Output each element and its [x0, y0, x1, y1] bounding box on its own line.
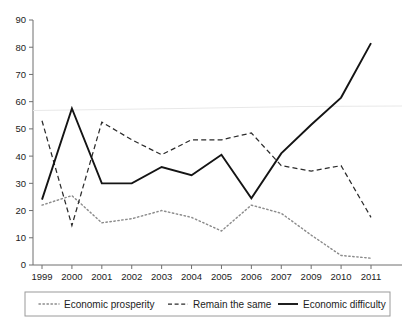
- y-axis-tick-label: 60: [15, 96, 26, 107]
- y-axis-tick-label: 30: [15, 178, 26, 189]
- x-axis-tick-label: 2003: [151, 271, 172, 282]
- scan-artifact-line: [33, 106, 402, 111]
- x-axis-tick-label: 2011: [361, 271, 381, 282]
- x-axis-tick-label: 1999: [31, 271, 52, 282]
- x-axis-tick-label: 2009: [301, 271, 322, 282]
- y-axis: 0102030405060708090: [15, 14, 33, 270]
- y-axis-tick-label: 20: [15, 205, 26, 216]
- chart-legend: Economic prosperityRemain the sameEconom…: [25, 292, 390, 316]
- x-axis-tick-label: 2001: [91, 271, 112, 282]
- series-line-economic-prosperity: [42, 196, 371, 259]
- legend-label: Economic difficulty: [303, 299, 386, 310]
- y-axis-tick-label: 0: [21, 259, 26, 270]
- y-axis-tick-label: 40: [15, 151, 26, 162]
- x-axis-tick-label: 2004: [181, 271, 202, 282]
- y-axis-tick-label: 90: [15, 14, 26, 25]
- x-axis-tick-label: 2005: [211, 271, 232, 282]
- y-axis-tick-label: 10: [15, 232, 26, 243]
- y-axis-tick-label: 80: [15, 42, 26, 53]
- y-axis-tick-label: 70: [15, 69, 26, 80]
- data-series-group: [42, 43, 371, 258]
- series-line-economic-difficulty: [42, 43, 371, 200]
- y-axis-tick-label: 50: [15, 123, 26, 134]
- x-axis-tick-label: 2000: [61, 271, 82, 282]
- x-axis: 1999200020012002200320042005200620072009…: [31, 265, 402, 282]
- legend-label: Remain the same: [193, 299, 272, 310]
- series-line-remain-the-same: [42, 121, 371, 226]
- x-axis-tick-label: 2010: [331, 271, 352, 282]
- x-axis-tick-label: 2006: [241, 271, 262, 282]
- x-axis-tick-label: 2002: [121, 271, 142, 282]
- line-chart: 0102030405060708090 19992000200120022003…: [0, 0, 407, 327]
- chart-canvas: 0102030405060708090 19992000200120022003…: [0, 0, 407, 327]
- legend-label: Economic prosperity: [64, 299, 155, 310]
- x-axis-tick-label: 2007: [271, 271, 292, 282]
